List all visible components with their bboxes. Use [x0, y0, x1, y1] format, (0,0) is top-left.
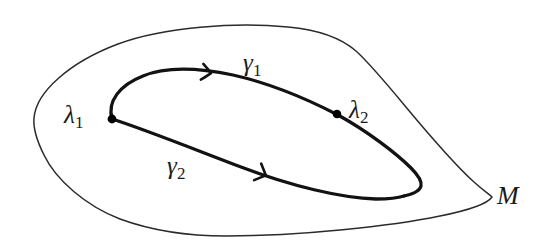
path-gamma-2 — [112, 119, 404, 199]
label-gamma-1: γ1 — [243, 50, 261, 75]
arrow-gamma-1-icon — [201, 64, 212, 81]
label-lambda-1-glyph: λ — [64, 101, 75, 128]
point-lambda-2 — [333, 110, 342, 119]
label-gamma-1-subscript: 1 — [253, 61, 262, 80]
label-lambda-1-subscript: 1 — [75, 113, 84, 132]
label-gamma-2-subscript: 2 — [177, 164, 186, 183]
label-gamma-1-glyph: γ — [243, 49, 253, 76]
label-lambda-2-subscript: 2 — [360, 108, 369, 127]
label-manifold-m: M — [497, 183, 519, 209]
manifold-diagram: λ1 λ2 γ1 γ2 M — [0, 0, 548, 243]
label-lambda-2-glyph: λ — [349, 96, 360, 123]
label-gamma-2-glyph: γ — [167, 152, 177, 179]
label-lambda-1: λ1 — [64, 102, 83, 127]
label-gamma-2: γ2 — [167, 153, 185, 178]
label-lambda-2: λ2 — [349, 97, 368, 122]
manifold-boundary-path — [34, 25, 492, 236]
point-lambda-1 — [108, 115, 117, 124]
